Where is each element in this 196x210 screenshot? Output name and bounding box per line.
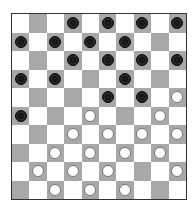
black-piece[interactable] bbox=[102, 91, 114, 103]
square-r6-c1[interactable] bbox=[29, 125, 46, 144]
square-r9-c4[interactable] bbox=[82, 181, 99, 200]
square-r7-c5 bbox=[99, 144, 116, 163]
square-r3-c8[interactable] bbox=[151, 70, 168, 89]
square-r0-c0 bbox=[12, 14, 29, 33]
black-piece[interactable] bbox=[119, 36, 131, 48]
white-piece[interactable] bbox=[67, 165, 79, 177]
white-piece[interactable] bbox=[84, 147, 96, 159]
white-piece[interactable] bbox=[136, 128, 148, 140]
square-r8-c5[interactable] bbox=[99, 162, 116, 181]
square-r2-c1[interactable] bbox=[29, 51, 46, 70]
square-r4-c1[interactable] bbox=[29, 88, 46, 107]
square-r0-c5[interactable] bbox=[99, 14, 116, 33]
black-piece[interactable] bbox=[84, 36, 96, 48]
square-r1-c6[interactable] bbox=[116, 33, 133, 52]
square-r9-c7 bbox=[134, 181, 151, 200]
white-piece[interactable] bbox=[154, 147, 166, 159]
white-piece[interactable] bbox=[102, 165, 114, 177]
square-r6-c5[interactable] bbox=[99, 125, 116, 144]
square-r3-c2[interactable] bbox=[47, 70, 64, 89]
square-r9-c8[interactable] bbox=[151, 181, 168, 200]
square-r4-c9[interactable] bbox=[169, 88, 186, 107]
square-r9-c2[interactable] bbox=[47, 181, 64, 200]
square-r3-c6[interactable] bbox=[116, 70, 133, 89]
black-piece[interactable] bbox=[49, 73, 61, 85]
square-r2-c9[interactable] bbox=[169, 51, 186, 70]
black-piece[interactable] bbox=[67, 54, 79, 66]
square-r3-c4[interactable] bbox=[82, 70, 99, 89]
white-piece[interactable] bbox=[154, 110, 166, 122]
white-piece[interactable] bbox=[171, 91, 183, 103]
black-piece[interactable] bbox=[136, 54, 148, 66]
white-piece[interactable] bbox=[171, 165, 183, 177]
square-r5-c0[interactable] bbox=[12, 107, 29, 126]
square-r1-c0[interactable] bbox=[12, 33, 29, 52]
square-r4-c5[interactable] bbox=[99, 88, 116, 107]
square-r6-c6 bbox=[116, 125, 133, 144]
square-r0-c7[interactable] bbox=[134, 14, 151, 33]
square-r3-c7 bbox=[134, 70, 151, 89]
black-piece[interactable] bbox=[49, 36, 61, 48]
square-r1-c2[interactable] bbox=[47, 33, 64, 52]
white-piece[interactable] bbox=[102, 128, 114, 140]
black-piece[interactable] bbox=[15, 36, 27, 48]
square-r7-c2[interactable] bbox=[47, 144, 64, 163]
white-piece[interactable] bbox=[49, 184, 61, 196]
square-r4-c7[interactable] bbox=[134, 88, 151, 107]
square-r7-c4[interactable] bbox=[82, 144, 99, 163]
square-r5-c2[interactable] bbox=[47, 107, 64, 126]
white-piece[interactable] bbox=[119, 184, 131, 196]
square-r0-c8 bbox=[151, 14, 168, 33]
square-r9-c9 bbox=[169, 181, 186, 200]
square-r5-c6[interactable] bbox=[116, 107, 133, 126]
black-piece[interactable] bbox=[136, 17, 148, 29]
square-r6-c7[interactable] bbox=[134, 125, 151, 144]
square-r1-c4[interactable] bbox=[82, 33, 99, 52]
black-piece[interactable] bbox=[119, 73, 131, 85]
square-r6-c2 bbox=[47, 125, 64, 144]
square-r2-c7[interactable] bbox=[134, 51, 151, 70]
black-piece[interactable] bbox=[171, 17, 183, 29]
square-r5-c1 bbox=[29, 107, 46, 126]
square-r5-c5 bbox=[99, 107, 116, 126]
white-piece[interactable] bbox=[49, 147, 61, 159]
black-piece[interactable] bbox=[15, 110, 27, 122]
square-r8-c7[interactable] bbox=[134, 162, 151, 181]
square-r5-c4[interactable] bbox=[82, 107, 99, 126]
square-r2-c3[interactable] bbox=[64, 51, 81, 70]
black-piece[interactable] bbox=[171, 54, 183, 66]
square-r8-c3[interactable] bbox=[64, 162, 81, 181]
square-r0-c9[interactable] bbox=[169, 14, 186, 33]
white-piece[interactable] bbox=[32, 165, 44, 177]
square-r6-c9[interactable] bbox=[169, 125, 186, 144]
checkers-board[interactable] bbox=[11, 13, 187, 200]
square-r0-c1[interactable] bbox=[29, 14, 46, 33]
square-r7-c8[interactable] bbox=[151, 144, 168, 163]
black-piece[interactable] bbox=[102, 54, 114, 66]
square-r3-c0[interactable] bbox=[12, 70, 29, 89]
square-r1-c1 bbox=[29, 33, 46, 52]
square-r8-c1[interactable] bbox=[29, 162, 46, 181]
square-r2-c5[interactable] bbox=[99, 51, 116, 70]
square-r4-c3[interactable] bbox=[64, 88, 81, 107]
white-piece[interactable] bbox=[119, 147, 131, 159]
square-r1-c8[interactable] bbox=[151, 33, 168, 52]
black-piece[interactable] bbox=[15, 73, 27, 85]
square-r2-c2 bbox=[47, 51, 64, 70]
white-piece[interactable] bbox=[84, 184, 96, 196]
square-r9-c6[interactable] bbox=[116, 181, 133, 200]
square-r8-c9[interactable] bbox=[169, 162, 186, 181]
white-piece[interactable] bbox=[171, 128, 183, 140]
square-r6-c3[interactable] bbox=[64, 125, 81, 144]
square-r7-c6[interactable] bbox=[116, 144, 133, 163]
square-r9-c0[interactable] bbox=[12, 181, 29, 200]
square-r7-c0[interactable] bbox=[12, 144, 29, 163]
black-piece[interactable] bbox=[102, 17, 114, 29]
black-piece[interactable] bbox=[67, 17, 79, 29]
white-piece[interactable] bbox=[67, 128, 79, 140]
square-r4-c2 bbox=[47, 88, 64, 107]
square-r5-c8[interactable] bbox=[151, 107, 168, 126]
square-r0-c3[interactable] bbox=[64, 14, 81, 33]
white-piece[interactable] bbox=[84, 110, 96, 122]
black-piece[interactable] bbox=[136, 91, 148, 103]
